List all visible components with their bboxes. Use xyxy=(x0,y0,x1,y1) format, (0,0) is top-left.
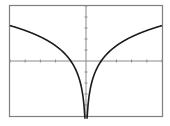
function-graph xyxy=(0,0,170,126)
